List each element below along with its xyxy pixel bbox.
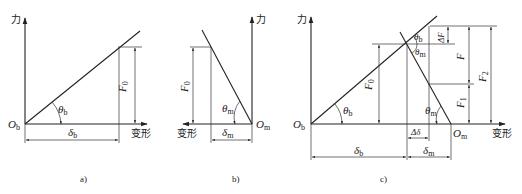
svg-text:F0: F0: [362, 79, 376, 91]
svg-text:Δδ: Δδ: [410, 127, 421, 137]
bolt-joint-force-deformation-diagram: 力 变形 F0 δb θb Ob a) 力 变形 F0 δm θm Om b): [0, 0, 522, 194]
deformation-axis-label: 变形: [131, 127, 151, 139]
svg-text:δb: δb: [354, 144, 363, 158]
panel-a-bolt-stiffness: 力 变形 F0 δb θb Ob a): [8, 13, 151, 184]
force-axis-label: 力: [256, 13, 266, 25]
force-axis-label: 力: [297, 13, 307, 25]
svg-text:F: F: [454, 53, 466, 61]
svg-text:δm: δm: [423, 144, 435, 158]
deformation-axis-label: 变形: [177, 127, 197, 139]
svg-text:δm: δm: [222, 126, 234, 140]
bolt-stiffness-line: [25, 31, 140, 124]
panel-b-member-stiffness: 力 变形 F0 δm θm Om b): [177, 13, 271, 184]
svg-text:θm: θm: [425, 104, 437, 118]
origin-om: Om: [453, 127, 468, 141]
origin-om: Om: [256, 118, 271, 132]
caption-a: a): [80, 174, 87, 184]
theta-m-arc-origin: [436, 106, 441, 124]
svg-text:F0: F0: [116, 81, 130, 93]
svg-text:δb: δb: [68, 126, 77, 140]
origin-ob: Ob: [8, 118, 20, 132]
svg-text:F0: F0: [178, 81, 192, 93]
force-axis-label: 力: [11, 13, 21, 25]
svg-text:θm: θm: [222, 102, 234, 116]
svg-text:F2: F2: [476, 71, 490, 83]
theta-m-arc: [234, 101, 240, 124]
svg-text:θb: θb: [58, 103, 67, 117]
svg-text:ΔF: ΔF: [436, 32, 446, 44]
panel-c-combined-diagram: 力 变形 F0 ΔF F F1 F2 Δδ: [293, 13, 512, 184]
svg-text:θb: θb: [343, 104, 352, 118]
svg-text:θm: θm: [415, 47, 426, 59]
svg-text:F1: F1: [454, 97, 468, 109]
caption-c: c): [380, 174, 387, 184]
origin-ob: Ob: [293, 118, 305, 132]
svg-text:θb: θb: [414, 32, 422, 44]
theta-b-arc-origin: [335, 104, 342, 124]
caption-b: b): [232, 174, 240, 184]
deformation-axis-label: 变形: [492, 127, 512, 139]
